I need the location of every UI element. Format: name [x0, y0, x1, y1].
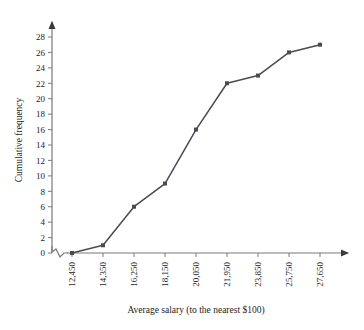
- y-tick-label: 28: [36, 32, 46, 42]
- x-tick-label: 14,350: [98, 262, 108, 287]
- y-tick-label: 22: [36, 79, 45, 89]
- y-tick-label: 24: [36, 63, 46, 73]
- data-series-cumulative-frequency: [70, 43, 322, 255]
- y-tick-label: 16: [36, 125, 46, 135]
- y-tick-label: 18: [36, 109, 46, 119]
- y-tick-label: 12: [36, 156, 45, 166]
- y-tick-label: 2: [41, 233, 46, 243]
- y-axis: 0 2 4 6 8 10 12 14 16 18 20 22 24 26 28 …: [14, 22, 52, 258]
- y-tick-label: 6: [41, 202, 46, 212]
- y-tick-label: 14: [36, 140, 46, 150]
- series-line: [72, 45, 320, 253]
- x-axis-tick-labels: 12,450 14,350 16,250 18,150 20,050 21,95…: [67, 262, 325, 287]
- y-axis-title: Cumulative frequency: [14, 97, 24, 182]
- data-point-marker: [256, 74, 260, 78]
- y-tick-label: 0: [41, 248, 46, 258]
- y-tick-label: 8: [41, 187, 46, 197]
- x-tick-label: 12,450: [67, 262, 77, 287]
- data-point-marker: [318, 43, 322, 47]
- x-axis-title: Average salary (to the nearest $100): [127, 305, 264, 316]
- data-point-marker: [194, 128, 198, 132]
- cumulative-frequency-chart-figure: 0 2 4 6 8 10 12 14 16 18 20 22 24 26 28 …: [0, 0, 364, 330]
- chart-canvas: 0 2 4 6 8 10 12 14 16 18 20 22 24 26 28 …: [0, 0, 364, 330]
- y-tick-label: 26: [36, 48, 46, 58]
- data-point-marker: [225, 81, 229, 85]
- axis-break-zigzag-icon: [52, 246, 68, 257]
- x-tick-label: 27,650: [315, 262, 325, 287]
- data-point-marker: [132, 205, 136, 209]
- series-markers: [70, 43, 322, 255]
- x-tick-label: 25,750: [284, 262, 294, 287]
- data-point-marker: [101, 243, 105, 247]
- x-tick-label: 18,150: [160, 262, 170, 287]
- data-point-marker: [163, 182, 167, 186]
- y-tick-label: 10: [36, 171, 46, 181]
- x-tick-label: 20,050: [191, 262, 201, 287]
- data-point-marker: [287, 50, 291, 54]
- x-tick-label: 23,850: [253, 262, 263, 287]
- x-axis: 12,450 14,350 16,250 18,150 20,050 21,95…: [52, 246, 348, 316]
- y-tick-label: 20: [36, 94, 46, 104]
- x-tick-label: 21,950: [222, 262, 232, 287]
- x-tick-label: 16,250: [129, 262, 139, 287]
- y-tick-label: 4: [41, 217, 46, 227]
- data-point-marker: [70, 251, 74, 255]
- y-axis-tick-labels: 0 2 4 6 8 10 12 14 16 18 20 22 24 26 28: [36, 32, 46, 258]
